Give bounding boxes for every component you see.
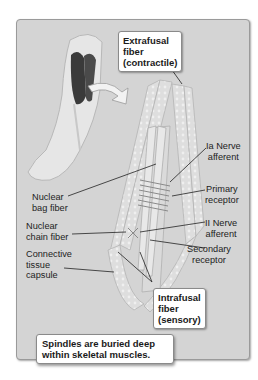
- figure-caption: Spindles are buried deep within skeletal…: [36, 334, 174, 364]
- callout-line: fiber: [123, 46, 177, 57]
- label-primary-receptor: Primaryreceptor: [205, 184, 239, 205]
- label-nuclear-bag-fiber: Nuclearbag fiber: [32, 192, 68, 213]
- extrafusal-fiber-callout: Extrafusal fiber (contractile): [118, 31, 182, 72]
- label-connective-tissue-capsule: Connectivetissuecapsule: [26, 249, 72, 281]
- intrafusal-fiber-callout: Intrafusal fiber (sensory): [153, 288, 206, 329]
- label-nuclear-chain-fiber: Nuclearchain fiber: [26, 221, 68, 242]
- label-ii-nerve-afferent: II Nerveafferent: [205, 218, 237, 239]
- callout-line: (contractile): [123, 57, 177, 68]
- label-secondary-receptor: Secondaryreceptor: [187, 244, 231, 265]
- arm-illustration: [28, 34, 102, 180]
- label-ia-nerve-afferent: Ia Nerveafferent: [206, 141, 241, 162]
- callout-line: Extrafusal: [123, 35, 177, 46]
